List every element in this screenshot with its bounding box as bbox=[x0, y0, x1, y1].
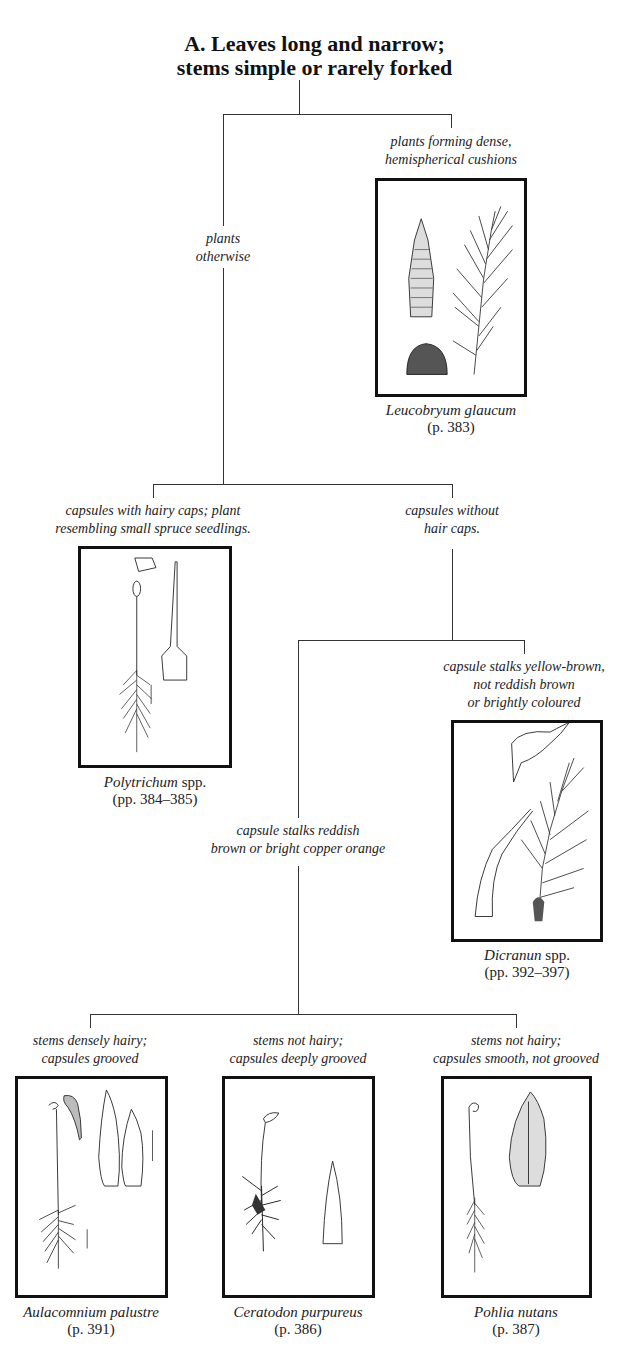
species-caption-aulacomnium: Aulacomnium palustre (p. 391) bbox=[23, 1304, 159, 1338]
branch-label-densely-hairy: stems densely hairy; capsules grooved bbox=[33, 1032, 147, 1068]
branch-label-reddish: capsule stalks reddish brown or bright c… bbox=[211, 822, 385, 858]
polytrichum-illustration-icon bbox=[81, 549, 229, 765]
connector bbox=[223, 268, 224, 484]
species-caption-dicranum: Dicranun spp. (pp. 392–397) bbox=[484, 947, 570, 981]
label-line: resembling small spruce seedlings. bbox=[55, 520, 250, 538]
species-pages: (p. 383) bbox=[386, 419, 516, 436]
species-suffix: spp. bbox=[178, 774, 206, 790]
label-line: plants forming dense, bbox=[385, 133, 517, 151]
species-caption-pohlia: Pohlia nutans (p. 387) bbox=[474, 1304, 558, 1338]
branch-label-without-hair-caps: capsules without hair caps. bbox=[405, 502, 499, 538]
label-line: or brightly coloured bbox=[443, 694, 605, 712]
species-name: Pohlia nutans bbox=[474, 1304, 558, 1320]
connector bbox=[223, 114, 224, 226]
connector bbox=[223, 114, 301, 115]
connector bbox=[299, 80, 300, 114]
branch-label-smooth: stems not hairy; capsules smooth, not gr… bbox=[433, 1032, 599, 1068]
species-suffix: spp. bbox=[542, 947, 570, 963]
aulacomnium-illustration-icon bbox=[18, 1079, 165, 1295]
connector bbox=[452, 549, 453, 640]
pohlia-illustration-icon bbox=[444, 1079, 589, 1295]
key-title-line2: stems simple or rarely forked bbox=[0, 56, 629, 80]
key-title-line1: A. Leaves long and narrow; bbox=[0, 32, 629, 56]
species-name: Ceratodon purpureus bbox=[233, 1304, 362, 1320]
branch-label-hairy-caps: capsules with hairy caps; plant resembli… bbox=[55, 502, 250, 538]
label-line: capsules grooved bbox=[33, 1050, 147, 1068]
species-box-aulacomnium bbox=[15, 1076, 168, 1298]
label-line: stems densely hairy; bbox=[33, 1032, 147, 1050]
label-line: not reddish brown bbox=[443, 676, 605, 694]
species-pages: (p. 387) bbox=[474, 1321, 558, 1338]
species-pages: (pp. 392–397) bbox=[484, 964, 570, 981]
species-box-polytrichum bbox=[78, 546, 232, 768]
species-name: Aulacomnium palustre bbox=[23, 1304, 159, 1320]
label-line: capsules smooth, not grooved bbox=[433, 1050, 599, 1068]
ceratodon-illustration-icon bbox=[225, 1079, 372, 1295]
species-name: Dicranun bbox=[484, 947, 542, 963]
connector bbox=[298, 866, 299, 1014]
connector bbox=[516, 1014, 517, 1028]
label-line: capsule stalks reddish bbox=[211, 822, 385, 840]
dicranum-illustration-icon bbox=[454, 723, 600, 939]
connector bbox=[90, 1014, 91, 1028]
connector bbox=[298, 640, 299, 818]
label-line: capsules deeply grooved bbox=[229, 1050, 366, 1068]
species-caption-leucobryum: Leucobryum glaucum (p. 383) bbox=[386, 402, 516, 436]
connector bbox=[153, 484, 154, 498]
label-line: capsule stalks yellow-brown, bbox=[443, 658, 605, 676]
species-name: Polytrichum bbox=[104, 774, 178, 790]
label-line: plants bbox=[196, 230, 250, 248]
connector bbox=[153, 484, 453, 485]
branch-label-cushions: plants forming dense, hemispherical cush… bbox=[385, 133, 517, 169]
species-caption-ceratodon: Ceratodon purpureus (p. 386) bbox=[233, 1304, 362, 1338]
key-title: A. Leaves long and narrow; stems simple … bbox=[0, 32, 629, 80]
branch-label-yellow-brown: capsule stalks yellow-brown, not reddish… bbox=[443, 658, 605, 712]
label-line: hair caps. bbox=[405, 520, 499, 538]
species-box-leucobryum bbox=[375, 178, 527, 397]
branch-label-deeply-grooved: stems not hairy; capsules deeply grooved bbox=[229, 1032, 366, 1068]
connector bbox=[451, 114, 452, 128]
connector bbox=[452, 484, 453, 498]
label-line: capsules without bbox=[405, 502, 499, 520]
connector bbox=[90, 1014, 517, 1015]
species-pages: (p. 386) bbox=[233, 1321, 362, 1338]
connector bbox=[299, 114, 452, 115]
connector bbox=[524, 640, 525, 654]
label-line: hemispherical cushions bbox=[385, 151, 517, 169]
label-line: stems not hairy; bbox=[229, 1032, 366, 1050]
species-box-pohlia bbox=[441, 1076, 592, 1298]
species-pages: (pp. 384–385) bbox=[104, 791, 207, 808]
species-pages: (p. 391) bbox=[23, 1321, 159, 1338]
label-line: capsules with hairy caps; plant bbox=[55, 502, 250, 520]
label-line: brown or bright copper orange bbox=[211, 840, 385, 858]
branch-label-otherwise: plants otherwise bbox=[196, 230, 250, 266]
connector bbox=[298, 640, 524, 641]
species-name: Leucobryum glaucum bbox=[386, 402, 516, 418]
leucobryum-illustration-icon bbox=[378, 181, 524, 394]
label-line: otherwise bbox=[196, 248, 250, 266]
species-box-ceratodon bbox=[222, 1076, 375, 1298]
species-box-dicranum bbox=[451, 720, 603, 942]
label-line: stems not hairy; bbox=[433, 1032, 599, 1050]
species-caption-polytrichum: Polytrichum spp. (pp. 384–385) bbox=[104, 774, 207, 808]
